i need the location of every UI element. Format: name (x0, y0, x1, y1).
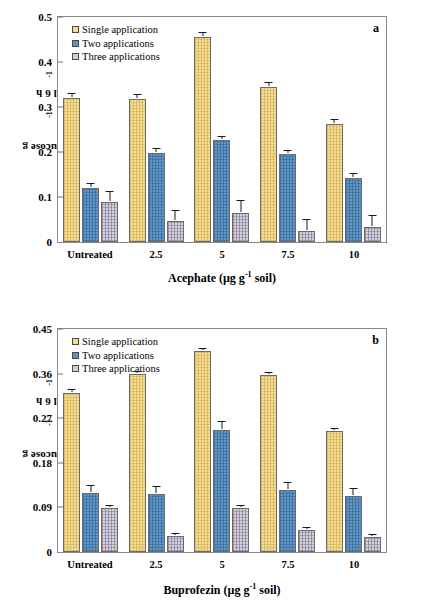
bar-three[interactable] (298, 530, 315, 552)
bar-single[interactable] (129, 374, 146, 552)
bar-single[interactable] (326, 431, 343, 552)
y-tick-label: 0.5 (18, 12, 58, 23)
figure-container: mg glucose g-1 soil 6 h-1 a Single appli… (0, 0, 444, 612)
bar-three[interactable] (364, 227, 381, 242)
bar-single[interactable] (63, 98, 80, 242)
bar-two[interactable] (345, 496, 362, 552)
bar-group (255, 17, 321, 242)
bar-three[interactable] (232, 508, 249, 552)
plot-area-a: a Single application Two applications Th… (57, 16, 387, 243)
bar-two[interactable] (213, 140, 230, 242)
bar-three[interactable] (101, 508, 118, 552)
x-axis-labels-b: Untreated2.557.510 (57, 559, 387, 570)
y-tick-mark (58, 197, 63, 198)
bar-two[interactable] (148, 494, 165, 552)
y-tick-mark (58, 152, 63, 153)
bar-group (189, 17, 255, 242)
y-axis-title-a: mg glucose g-1 soil 6 h-1 (0, 60, 21, 190)
bar-two[interactable] (82, 493, 99, 552)
y-axis-title-b: mg glucose g-1 soil 6 h-1 (0, 368, 21, 498)
bar-two[interactable] (82, 188, 99, 242)
bar-groups-a (58, 17, 386, 242)
bar-two[interactable] (279, 154, 296, 242)
y-tick-mark (58, 62, 63, 63)
error-bar (175, 210, 176, 220)
y-tick-label: 0.45 (18, 324, 58, 335)
error-bar (175, 533, 176, 534)
error-bar (202, 32, 203, 36)
bar-groups-b (58, 329, 386, 552)
y-tick-mark (58, 507, 63, 508)
bar-group (189, 329, 255, 552)
bar-single[interactable] (326, 124, 343, 242)
y-tick-label: 0.18 (18, 457, 58, 468)
error-bar (221, 136, 222, 139)
x-tick-label: 5 (189, 559, 255, 570)
error-bar (137, 371, 138, 373)
error-bar (372, 215, 373, 226)
bar-two[interactable] (345, 178, 362, 242)
x-tick-label: 2.5 (123, 249, 189, 260)
error-bar (109, 191, 110, 201)
error-bar (156, 486, 157, 493)
error-bar (137, 94, 138, 98)
error-bar (334, 428, 335, 430)
x-tick-label: 5 (189, 249, 255, 260)
bar-group (255, 329, 321, 552)
y-tick-mark (58, 329, 63, 330)
error-bar (287, 482, 288, 489)
error-bar (306, 527, 307, 529)
error-bar (268, 372, 269, 374)
y-tick-label: 0.27 (18, 413, 58, 424)
bar-two[interactable] (279, 490, 296, 552)
bar-group (58, 17, 124, 242)
error-bar (353, 488, 354, 495)
y-tick-label: 0 (18, 237, 58, 248)
bar-group (320, 329, 386, 552)
bar-group (320, 17, 386, 242)
x-axis-labels-a: Untreated2.557.510 (57, 249, 387, 260)
error-bar (240, 200, 241, 212)
x-tick-label: 10 (321, 559, 387, 570)
y-tick-label: 0.3 (18, 102, 58, 113)
error-bar (71, 389, 72, 392)
bar-single[interactable] (194, 37, 211, 242)
bar-three[interactable] (167, 221, 184, 242)
error-bar (71, 93, 72, 97)
chart-panel-a: mg glucose g-1 soil 6 h-1 a Single appli… (0, 0, 444, 306)
y-tick-label: 0 (18, 547, 58, 558)
y-tick-mark (58, 107, 63, 108)
error-bar (306, 219, 307, 229)
error-bar (90, 485, 91, 491)
bar-three[interactable] (298, 231, 315, 242)
bar-single[interactable] (129, 99, 146, 242)
y-tick-mark (58, 373, 63, 374)
bar-two[interactable] (148, 153, 165, 242)
x-tick-label: 7.5 (255, 559, 321, 570)
y-tick-mark (58, 17, 63, 18)
x-axis-title-a: Acephate (µg g-1 soil) (57, 271, 387, 286)
x-tick-label: 10 (321, 249, 387, 260)
error-bar (202, 348, 203, 350)
y-tick-mark (58, 418, 63, 419)
y-tick-label: 0.36 (18, 368, 58, 379)
bar-single[interactable] (194, 351, 211, 552)
bar-single[interactable] (260, 375, 277, 552)
bar-three[interactable] (364, 537, 381, 552)
bar-group (124, 17, 190, 242)
x-tick-label: 2.5 (123, 559, 189, 570)
y-tick-label: 0.4 (18, 57, 58, 68)
error-bar (372, 534, 373, 535)
bar-three[interactable] (232, 213, 249, 242)
bar-group (124, 329, 190, 552)
bar-three[interactable] (101, 202, 118, 242)
bar-three[interactable] (167, 536, 184, 552)
x-axis-title-b: Buprofezin (µg g-1 soil) (57, 583, 387, 598)
bar-two[interactable] (213, 430, 230, 552)
plot-area-b: b Single application Two applications Th… (57, 328, 387, 553)
bar-single[interactable] (260, 87, 277, 242)
y-tick-mark (58, 462, 63, 463)
error-bar (287, 150, 288, 153)
bar-single[interactable] (63, 393, 80, 552)
error-bar (221, 421, 222, 428)
